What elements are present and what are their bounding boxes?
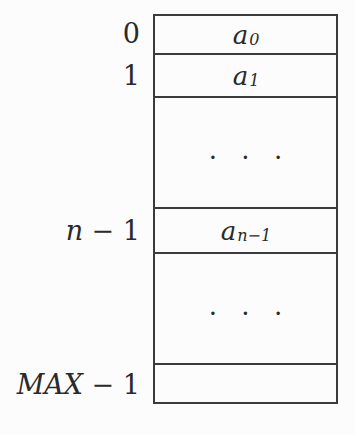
index-label-n-minus-1: n − 1	[0, 209, 140, 252]
cell-an-var: a	[221, 216, 237, 246]
index-label-n-rest: − 1	[83, 215, 140, 246]
index-label-0: 0	[0, 14, 140, 53]
index-label-1-text: 1	[123, 60, 140, 91]
array-cell-ellipsis-1: . . .	[155, 98, 336, 209]
cell-a0-var: a	[233, 20, 249, 50]
ellipsis-1-text: . . .	[200, 142, 291, 163]
index-label-0-text: 0	[123, 18, 140, 49]
index-label-n-var: n	[66, 215, 83, 246]
array-cell-a0: a0	[155, 16, 336, 55]
array-cell-ellipsis-2: . . .	[155, 254, 336, 365]
index-label-1: 1	[0, 55, 140, 96]
index-label-max-var: MAX	[17, 369, 83, 400]
index-label-max-minus-1: MAX − 1	[0, 365, 140, 404]
ellipsis-2-text: . . .	[200, 298, 291, 319]
array-box: a0 a1 . . . an−1 . . .	[153, 14, 338, 404]
array-cell-max-minus-1-empty	[155, 365, 336, 402]
array-cell-a-n-minus-1: an−1	[155, 209, 336, 254]
array-memory-diagram: 0 1 n − 1 MAX − 1 a0 a1 . . . an−1 . . .	[0, 0, 355, 434]
cell-a1-var: a	[233, 61, 249, 91]
array-cell-a1: a1	[155, 55, 336, 98]
index-label-max-rest: − 1	[83, 369, 140, 400]
